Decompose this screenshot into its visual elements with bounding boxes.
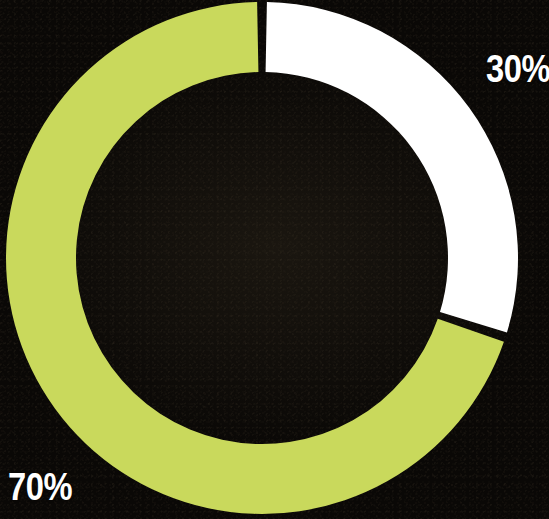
donut-slices	[6, 2, 518, 514]
slice-label-30: 30%	[486, 50, 549, 88]
slice-label-70: 70%	[8, 468, 72, 506]
donut-chart	[0, 0, 549, 519]
donut-slice-30[interactable]	[266, 2, 518, 332]
donut-chart-figure: 30% 70%	[0, 0, 549, 519]
